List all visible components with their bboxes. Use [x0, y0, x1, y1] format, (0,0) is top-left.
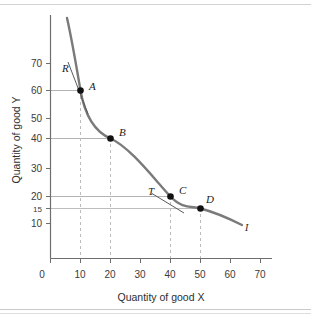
x-tick-label-60: 60 — [224, 269, 236, 280]
x-tick-label-30: 30 — [134, 269, 146, 280]
y-tick-label-15: 15 — [33, 205, 42, 214]
curve-label-I: I — [244, 222, 249, 233]
point-label-C: C — [179, 184, 187, 196]
y-axis-title: Quantity of good Y — [10, 97, 22, 184]
indifference-curve-figure: 70 60 50 40 30 20 15 10 0 10 20 30 40 — [0, 0, 311, 321]
x-tick-label-40: 40 — [164, 269, 176, 280]
y-tick-label-70: 70 — [31, 58, 43, 69]
data-point-A — [77, 87, 84, 94]
x-tick-label-70: 70 — [254, 269, 266, 280]
data-point-C — [167, 193, 174, 200]
x-tick-label-20: 20 — [104, 269, 116, 280]
point-label-D: D — [205, 193, 214, 205]
x-tick-label-10: 10 — [74, 269, 86, 280]
data-point-B — [107, 135, 114, 142]
tangent-label-T: T — [148, 185, 155, 197]
y-tick-label-40: 40 — [31, 133, 43, 144]
data-point-D — [197, 205, 204, 212]
x-tick-label-50: 50 — [194, 269, 206, 280]
point-label-A: A — [88, 80, 96, 92]
point-label-B: B — [119, 126, 126, 138]
y-tick-label-20: 20 — [31, 191, 43, 202]
y-tick-label-50: 50 — [31, 113, 43, 124]
x-axis-title: Quantity of good X — [118, 291, 205, 303]
x-tick-label-0: 0 — [39, 269, 45, 280]
chart-svg: 70 60 50 40 30 20 15 10 0 10 20 30 40 — [0, 0, 311, 321]
y-tick-label-30: 30 — [31, 163, 43, 174]
tangent-label-R: R — [61, 62, 69, 74]
y-tick-label-10: 10 — [31, 218, 43, 229]
y-tick-label-60: 60 — [31, 85, 43, 96]
